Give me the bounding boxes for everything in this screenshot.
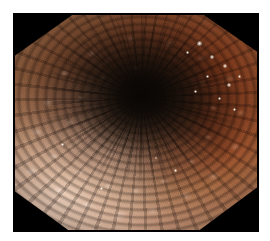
specular-highlight: [210, 55, 214, 59]
optical-vignette: [13, 13, 259, 232]
lumen-core-shadow: [13, 13, 259, 232]
radial-mucosal-folds: [13, 13, 259, 232]
mucosa-base-gradient: [13, 13, 259, 232]
specular-highlight: [197, 41, 202, 46]
mucosa-lower-left-flush: [13, 13, 259, 232]
crypt-groove-network: [13, 13, 259, 232]
mucosa-rust-zone: [13, 13, 259, 232]
endoscopic-scene: [13, 13, 259, 232]
specular-highlight: [61, 143, 64, 146]
specular-highlight: [233, 108, 236, 111]
specular-highlight: [100, 187, 103, 190]
specular-highlight: [155, 157, 157, 159]
mucosa-cool-cast: [13, 13, 259, 232]
sensor-grain-overlay: [13, 13, 259, 232]
endoscopy-image-viewer: [0, 0, 270, 241]
specular-highlight: [218, 97, 221, 100]
mucosal-nodules-secondary: [13, 13, 259, 232]
mucosal-nodules-primary: [13, 13, 259, 232]
specular-highlight: [206, 75, 209, 78]
specular-highlight: [227, 83, 231, 87]
specular-highlight: [238, 75, 241, 78]
specular-highlight: [174, 169, 177, 172]
specular-highlight: [186, 51, 189, 54]
specular-highlight: [194, 90, 197, 93]
specular-highlight: [223, 64, 227, 68]
endoscope-image-frame: [13, 13, 259, 232]
